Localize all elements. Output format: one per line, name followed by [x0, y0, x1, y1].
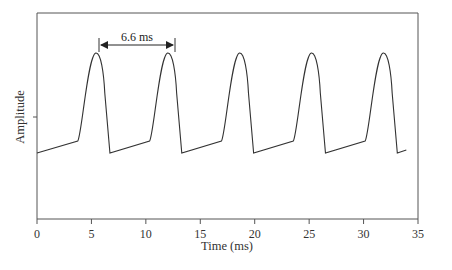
x-axis-label: Time (ms): [201, 239, 253, 253]
x-tick-label: 30: [358, 227, 370, 241]
waveform-line: [37, 53, 406, 153]
x-tick-label: 10: [140, 227, 152, 241]
x-tick-label: 0: [34, 227, 40, 241]
chart-svg: 05101520253035 6.6 ms Time (ms) Amplitud…: [0, 0, 452, 270]
x-tick-label: 35: [412, 227, 424, 241]
period-label: 6.6 ms: [121, 30, 153, 44]
x-tick-label: 25: [303, 227, 315, 241]
period-annotation: 6.6 ms: [99, 30, 175, 52]
x-tick-label: 5: [88, 227, 94, 241]
plot-frame: [37, 13, 418, 219]
x-ticks: 05101520253035: [34, 219, 424, 241]
y-axis-label: Amplitude: [13, 90, 27, 144]
